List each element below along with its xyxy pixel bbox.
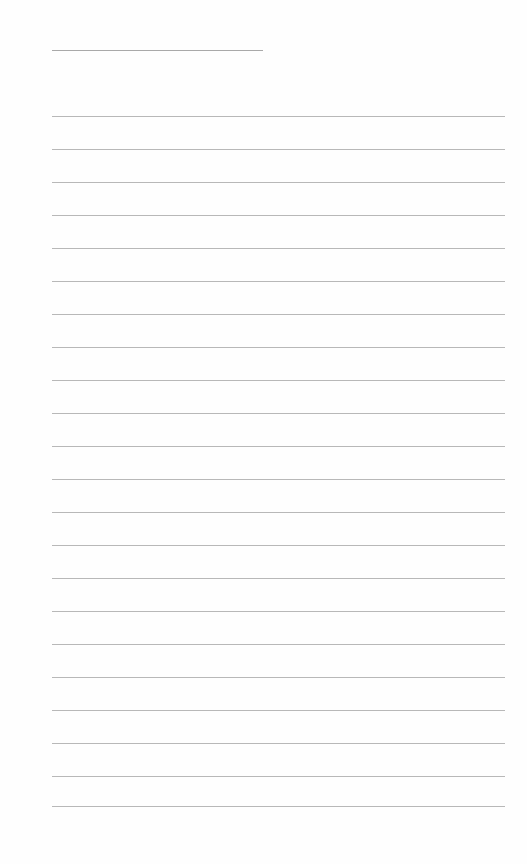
ruled-line xyxy=(52,413,505,414)
ruled-line xyxy=(52,215,505,216)
ruled-line xyxy=(52,248,505,249)
lined-paper-page xyxy=(0,0,527,864)
ruled-line xyxy=(52,611,505,612)
ruled-line xyxy=(52,380,505,381)
ruled-line xyxy=(52,710,505,711)
ruled-line xyxy=(52,578,505,579)
ruled-line xyxy=(52,644,505,645)
ruled-line xyxy=(52,347,505,348)
ruled-line xyxy=(52,182,505,183)
header-line xyxy=(52,50,263,51)
ruled-line xyxy=(52,314,505,315)
ruled-line xyxy=(52,116,505,117)
ruled-line xyxy=(52,149,505,150)
ruled-line xyxy=(52,281,505,282)
ruled-line xyxy=(52,479,505,480)
ruled-line xyxy=(52,743,505,744)
ruled-line xyxy=(52,677,505,678)
ruled-line xyxy=(52,776,505,777)
ruled-line xyxy=(52,446,505,447)
ruled-line xyxy=(52,545,505,546)
ruled-line xyxy=(52,806,505,807)
ruled-line xyxy=(52,512,505,513)
